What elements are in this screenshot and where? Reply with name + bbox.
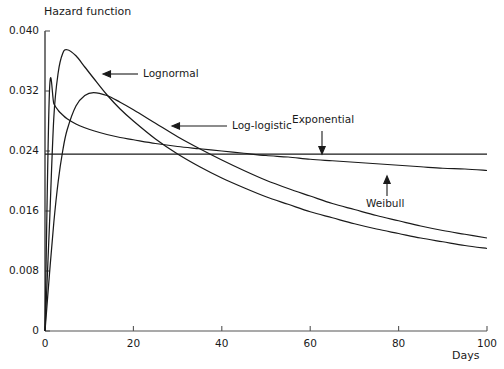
annotation-exponential: Exponential bbox=[292, 113, 354, 125]
exponential-arrow bbox=[319, 131, 325, 154]
series-lognormal bbox=[45, 50, 487, 331]
x-tick-label: 0 bbox=[25, 337, 65, 349]
annotation-weibull: Weibull bbox=[366, 197, 404, 209]
x-tick-label: 100 bbox=[467, 337, 504, 349]
x-axis-ticks bbox=[45, 326, 487, 331]
series-weibull bbox=[45, 78, 487, 331]
log-logistic-arrow bbox=[172, 123, 227, 129]
y-tick-label: 0.024 bbox=[0, 144, 39, 156]
hazard-function-chart: Hazard function Days 00.0080.0160.0240.0… bbox=[0, 0, 504, 369]
y-tick-label: 0 bbox=[0, 324, 39, 336]
x-tick-label: 20 bbox=[113, 337, 153, 349]
y-axis-title: Hazard function bbox=[44, 5, 131, 18]
chart-canvas bbox=[0, 0, 504, 369]
weibull-arrow bbox=[384, 176, 390, 196]
y-tick-label: 0.040 bbox=[0, 24, 39, 36]
x-tick-label: 40 bbox=[202, 337, 242, 349]
annotation-arrows bbox=[103, 71, 390, 196]
y-tick-label: 0.016 bbox=[0, 204, 39, 216]
y-tick-label: 0.032 bbox=[0, 84, 39, 96]
annotation-lognormal: Lognormal bbox=[143, 67, 199, 79]
lognormal-arrow bbox=[103, 71, 138, 77]
y-tick-label: 0.008 bbox=[0, 264, 39, 276]
x-tick-label: 60 bbox=[290, 337, 330, 349]
series-paths bbox=[45, 50, 487, 331]
x-axis-title: Days bbox=[452, 349, 479, 362]
annotation-log-logistic: Log-logistic bbox=[232, 119, 292, 131]
x-tick-label: 80 bbox=[379, 337, 419, 349]
